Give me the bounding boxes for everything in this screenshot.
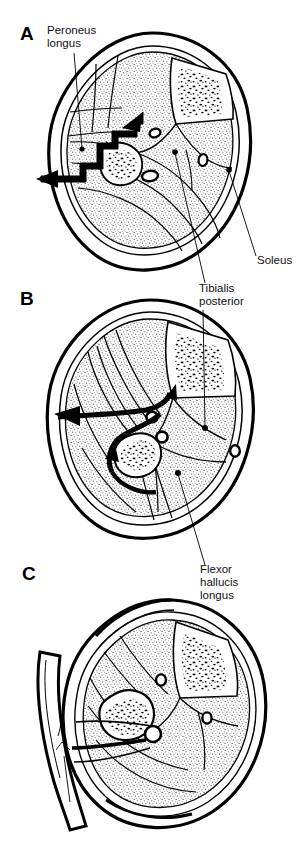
vessel-b-2 xyxy=(156,432,167,443)
vessel-a-2 xyxy=(141,170,158,183)
panel-a-letter: A xyxy=(20,23,34,44)
label-line: posterior xyxy=(199,295,244,307)
label-line: Soleus xyxy=(257,254,292,266)
peroneal-vessel-c xyxy=(145,726,161,742)
label-line: longus xyxy=(47,37,81,49)
panel-c-letter: C xyxy=(22,563,36,584)
label-line: Peroneus xyxy=(47,24,96,36)
panel-b-letter: B xyxy=(20,288,34,309)
vessel-b-3 xyxy=(230,445,240,457)
label-line: hallucis xyxy=(200,576,239,588)
label-line: longus xyxy=(200,589,234,601)
vessel-a-3 xyxy=(198,153,209,166)
leader-dot-peroneus xyxy=(79,146,84,151)
vessel-c-1 xyxy=(156,674,166,685)
label-line: Tibialis xyxy=(199,282,235,294)
anatomy-figure: A Perone xyxy=(0,0,296,849)
vessel-c-2 xyxy=(202,712,211,723)
label-line: Flexor xyxy=(200,563,232,575)
